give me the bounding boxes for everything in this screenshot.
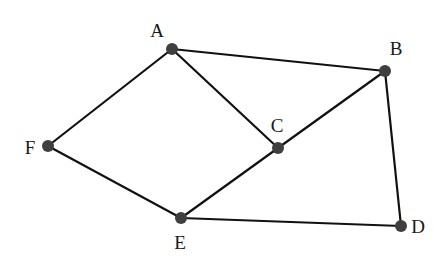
- graph-diagram: ABCDEF: [0, 0, 433, 265]
- node-label-a: A: [150, 20, 164, 41]
- edge-a-c: [172, 49, 278, 148]
- edges-group: [48, 49, 401, 226]
- edge-c-e: [181, 148, 278, 218]
- node-label-e: E: [174, 232, 186, 253]
- node-c: [272, 142, 284, 154]
- node-f: [42, 140, 54, 152]
- edge-e-d: [181, 218, 401, 226]
- edge-b-d: [385, 71, 401, 226]
- node-label-d: D: [411, 216, 425, 237]
- nodes-group: [42, 43, 407, 232]
- node-e: [175, 212, 187, 224]
- edge-b-c: [278, 71, 385, 148]
- node-label-c: C: [271, 115, 284, 136]
- node-d: [395, 220, 407, 232]
- node-a: [166, 43, 178, 55]
- edge-a-f: [48, 49, 172, 146]
- node-label-f: F: [25, 137, 36, 158]
- graph-svg: ABCDEF: [0, 0, 433, 265]
- edge-a-b: [172, 49, 385, 71]
- node-label-b: B: [390, 38, 403, 59]
- node-b: [379, 65, 391, 77]
- edge-f-e: [48, 146, 181, 218]
